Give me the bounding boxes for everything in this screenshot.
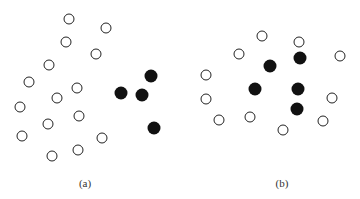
filled-circle-icon (136, 89, 149, 102)
open-circle-icon (47, 151, 58, 162)
open-circle-icon (44, 60, 55, 71)
panel-b-label: (b) (276, 177, 289, 189)
filled-circle-icon (294, 52, 307, 65)
open-circle-icon (234, 49, 245, 60)
open-circle-icon (101, 23, 112, 34)
open-circle-icon (24, 77, 35, 88)
open-circle-icon (335, 51, 346, 62)
open-circle-icon (245, 112, 256, 123)
open-circle-icon (318, 116, 329, 127)
open-circle-icon (61, 37, 72, 48)
open-circle-icon (91, 49, 102, 60)
filled-circle-icon (148, 122, 161, 135)
panel-a-label: (a) (79, 177, 91, 189)
open-circle-icon (97, 133, 108, 144)
filled-circle-icon (292, 83, 305, 96)
open-circle-icon (294, 37, 305, 48)
open-circle-icon (72, 83, 83, 94)
open-circle-icon (278, 125, 289, 136)
filled-circle-icon (115, 87, 128, 100)
open-circle-icon (257, 31, 268, 42)
open-circle-icon (327, 93, 338, 104)
filled-circle-icon (291, 103, 304, 116)
open-circle-icon (74, 111, 85, 122)
open-circle-icon (64, 14, 75, 25)
open-circle-icon (15, 102, 26, 113)
open-circle-icon (43, 119, 54, 130)
open-circle-icon (73, 145, 84, 156)
open-circle-icon (201, 94, 212, 105)
open-circle-icon (52, 93, 63, 104)
filled-circle-icon (145, 70, 158, 83)
open-circle-icon (214, 115, 225, 126)
filled-circle-icon (249, 83, 262, 96)
filled-circle-icon (264, 60, 277, 73)
open-circle-icon (17, 131, 28, 142)
open-circle-icon (201, 70, 212, 81)
